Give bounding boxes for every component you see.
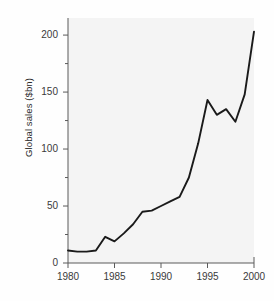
y-axis-title: Global sales ($bn) [23, 23, 34, 213]
data-series-line [68, 32, 254, 252]
y-tick-label: 0 [24, 258, 58, 268]
axes [63, 18, 254, 268]
x-tick-label: 1985 [95, 272, 135, 282]
x-tick-label: 1990 [141, 272, 181, 282]
x-tick-label: 1980 [48, 272, 88, 282]
x-tick-label: 2000 [234, 272, 274, 282]
chart-figure: 0 50 100 150 200 1980 1985 1990 1995 200… [0, 0, 274, 301]
x-tick-label: 1995 [188, 272, 228, 282]
